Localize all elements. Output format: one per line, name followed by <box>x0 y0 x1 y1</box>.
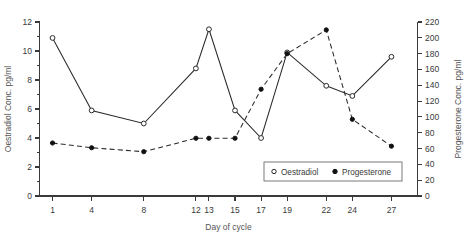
left-axis-tick-label: 0 <box>27 191 32 201</box>
series-progesterone <box>50 28 393 154</box>
data-point-oestradiol-day-4 <box>89 108 94 113</box>
dual-axis-line-chart: 024681012Oestradiol Conc. pg/ml020406080… <box>0 0 471 245</box>
right-axis-tick-label: 180 <box>425 49 439 59</box>
data-point-progesterone-day-27 <box>389 144 393 148</box>
data-point-oestradiol-day-1 <box>50 36 55 41</box>
data-point-progesterone-day-1 <box>50 141 54 145</box>
data-point-progesterone-day-15 <box>233 136 237 140</box>
data-point-progesterone-day-24 <box>350 117 354 121</box>
left-axis-tick-label: 6 <box>27 104 32 114</box>
x-axis-tick-label: 8 <box>141 205 146 215</box>
data-point-oestradiol-day-27 <box>389 54 394 59</box>
legend-marker-oestradiol <box>272 169 276 173</box>
data-point-oestradiol-day-22 <box>324 83 329 88</box>
left-axis-tick-label: 10 <box>23 46 33 56</box>
x-axis-tick-label: 19 <box>282 205 292 215</box>
data-point-oestradiol-day-15 <box>233 108 238 113</box>
x-axis-tick-label: 24 <box>348 205 358 215</box>
data-point-oestradiol-day-24 <box>350 94 355 99</box>
chart-container: 024681012Oestradiol Conc. pg/ml020406080… <box>0 0 471 245</box>
right-axis-tick-label: 80 <box>425 128 435 138</box>
series-line-progesterone <box>53 30 392 152</box>
right-axis-title: Progesterone Conc. pg/ml <box>453 60 463 159</box>
right-axis-tick-label: 20 <box>425 175 435 185</box>
right-axis-tick-label: 220 <box>425 17 439 27</box>
left-axis-title: Oestradiol Conc. pg/ml <box>3 66 13 153</box>
right-axis-tick-label: 60 <box>425 144 435 154</box>
legend-label-progesterone: Progesterone <box>342 168 392 177</box>
data-point-progesterone-day-12 <box>194 136 198 140</box>
x-axis-tick-label: 15 <box>230 205 240 215</box>
x-axis: 1481213151719222427Day of cycle <box>40 196 418 232</box>
x-axis-tick-label: 12 <box>191 205 201 215</box>
data-point-oestradiol-day-8 <box>141 121 146 126</box>
left-axis: 024681012Oestradiol Conc. pg/ml <box>3 17 40 201</box>
data-point-progesterone-day-22 <box>324 28 328 32</box>
right-axis-tick-label: 0 <box>425 191 430 201</box>
legend-marker-progesterone <box>333 169 337 173</box>
data-point-progesterone-day-13 <box>207 136 211 140</box>
data-point-oestradiol-day-13 <box>207 27 212 32</box>
x-axis-title: Day of cycle <box>205 222 252 232</box>
data-point-progesterone-day-8 <box>142 150 146 154</box>
right-axis-tick-label: 160 <box>425 64 439 74</box>
x-axis-tick-label: 4 <box>89 205 94 215</box>
x-axis-tick-label: 27 <box>387 205 397 215</box>
data-point-oestradiol-day-17 <box>259 136 264 141</box>
left-axis-tick-label: 12 <box>23 17 33 27</box>
right-axis-tick-label: 100 <box>425 112 439 122</box>
data-point-progesterone-day-17 <box>259 87 263 91</box>
legend-label-oestradiol: Oestradiol <box>281 168 318 177</box>
x-axis-tick-label: 22 <box>322 205 332 215</box>
right-axis: 020406080100120140160180200220Progestero… <box>418 17 464 201</box>
series-line-oestradiol <box>53 29 392 138</box>
x-axis-tick-label: 13 <box>204 205 214 215</box>
left-axis-tick-label: 8 <box>27 75 32 85</box>
legend: OestradiolProgesterone <box>264 162 402 181</box>
data-point-progesterone-day-4 <box>90 146 94 150</box>
x-axis-tick-label: 17 <box>256 205 266 215</box>
left-axis-tick-label: 2 <box>27 162 32 172</box>
x-axis-tick-label: 1 <box>50 205 55 215</box>
data-point-progesterone-day-19 <box>285 52 289 56</box>
right-axis-tick-label: 200 <box>425 33 439 43</box>
left-axis-tick-label: 4 <box>27 133 32 143</box>
right-axis-tick-label: 140 <box>425 80 439 90</box>
data-point-oestradiol-day-12 <box>194 66 199 71</box>
right-axis-tick-label: 120 <box>425 96 439 106</box>
right-axis-tick-label: 40 <box>425 159 435 169</box>
